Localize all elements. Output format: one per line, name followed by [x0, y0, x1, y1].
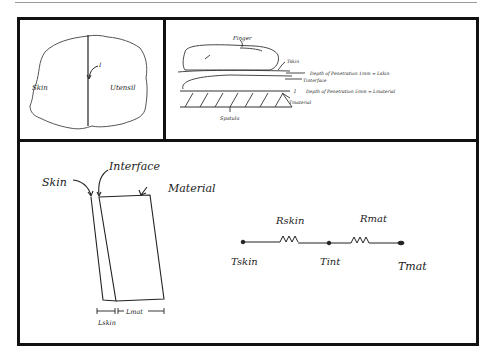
- label-depth-skin: Depth of Penetration 1mm = Lskin: [309, 71, 390, 76]
- label-skin: Skin: [32, 84, 48, 92]
- node-tint: [327, 241, 331, 245]
- label-tint-node: Tint: [320, 256, 341, 267]
- label-tmat-node: Tmat: [398, 260, 427, 273]
- label-slab-interface: Interface: [108, 160, 160, 173]
- label-tskin-node: Tskin: [231, 256, 258, 267]
- sketch-canvas: Skin Utensil I Finger Tskin Depth of Pen…: [0, 0, 491, 357]
- slab-skin-layer: [91, 197, 116, 301]
- label-tmaterial: Tmaterial: [289, 100, 312, 105]
- label-tinterface: Tinterface: [303, 78, 327, 83]
- label-finger: Finger: [232, 35, 252, 42]
- node-tskin: [241, 240, 245, 244]
- finger-nail: [240, 48, 262, 51]
- thermal-circuit: [241, 236, 404, 245]
- finger-spatula-sketch: [178, 40, 305, 112]
- contact-region-sketch: [30, 35, 147, 129]
- spatula-hatching: [185, 93, 283, 107]
- label-lskin: Lskin: [97, 319, 116, 327]
- label-lmat: Lmat: [125, 308, 143, 316]
- interface-layer-curve: [183, 75, 292, 89]
- skin-layer-line: [178, 70, 290, 72]
- label-i-marker: I: [293, 88, 297, 94]
- label-rmat: Rmat: [359, 213, 388, 224]
- resistor-rmat: [351, 237, 369, 243]
- finger-outline: [183, 45, 278, 70]
- finger-pointer: [240, 40, 242, 47]
- tmaterial-pointer: [282, 93, 290, 98]
- layered-slab-sketch: [73, 170, 164, 314]
- slab-material-layer: [99, 195, 164, 301]
- label-spatula: Spatula: [220, 115, 239, 122]
- label-rskin: Rskin: [275, 215, 304, 226]
- label-slab-material: Material: [167, 182, 216, 195]
- label-tskin: Tskin: [287, 59, 299, 64]
- label-utensil: Utensil: [110, 84, 135, 92]
- interface-arrow: [99, 170, 108, 195]
- tskin-pointer: [278, 62, 285, 70]
- label-interface-marker: I: [98, 61, 102, 68]
- node-tmat: [398, 241, 404, 245]
- label-depth-material: Depth of Penetration 5mm = Lmaterial: [305, 89, 396, 94]
- resistor-rskin: [280, 236, 298, 242]
- label-slab-skin: Skin: [42, 176, 67, 189]
